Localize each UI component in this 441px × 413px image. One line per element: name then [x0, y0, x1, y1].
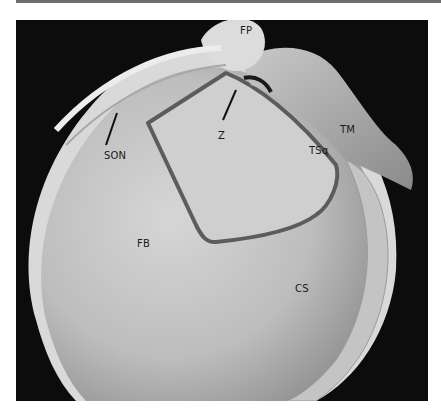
- label-son: SON: [104, 150, 126, 161]
- label-tm: TM: [340, 124, 355, 135]
- skull-illustration: [16, 20, 428, 401]
- label-z: Z: [218, 130, 225, 141]
- label-tsq: TSq: [309, 145, 328, 156]
- skull-photograph: FP TM Z SON TSq FB CS: [16, 20, 428, 401]
- label-fb: FB: [137, 238, 150, 249]
- label-fp: FP: [240, 25, 252, 36]
- label-cs: CS: [295, 283, 309, 294]
- top-rule: [16, 0, 441, 3]
